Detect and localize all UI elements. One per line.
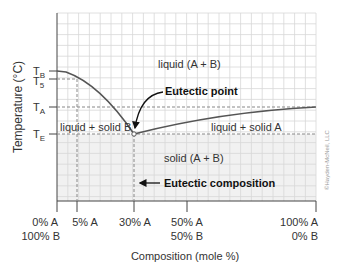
svg-text:0% B: 0% B xyxy=(292,230,318,242)
eutectic-point-label: Eutectic point xyxy=(165,85,238,97)
svg-text:0% A: 0% A xyxy=(32,216,58,228)
region-label-liquid-solid-b: liquid + solid B xyxy=(60,121,131,133)
copyright-notice: ©Hayden-McNeil, LLC xyxy=(324,129,330,189)
y-tick-marks xyxy=(49,71,57,134)
phase-diagram: TB T5 TA TE Temperature (°C) liquid (A +… xyxy=(0,0,341,274)
svg-text:50% B: 50% B xyxy=(171,230,203,242)
y-tick-labels: TB T5 TA TE xyxy=(33,65,46,143)
svg-text:TA: TA xyxy=(33,101,46,116)
y-axis-label: Temperature (°C) xyxy=(11,61,25,153)
eutectic-composition-label: Eutectic composition xyxy=(164,177,276,189)
x-axis-label: Composition (mole %) xyxy=(131,250,239,262)
svg-text:30% A: 30% A xyxy=(119,216,151,228)
region-label-liquid: liquid (A + B) xyxy=(158,58,221,70)
x-tick-labels: 0% A 100% B 5% A 30% A 50% A 50% B 100% … xyxy=(21,216,318,242)
svg-text:50% A: 50% A xyxy=(171,216,203,228)
svg-text:100% B: 100% B xyxy=(21,230,60,242)
region-label-solid: solid (A + B) xyxy=(164,152,224,164)
svg-text:5% A: 5% A xyxy=(72,216,98,228)
region-label-liquid-solid-a: liquid + solid A xyxy=(211,121,282,133)
x-tick-marks xyxy=(57,201,316,212)
eutectic-point-marker xyxy=(132,132,136,136)
svg-text:TE: TE xyxy=(33,128,45,143)
svg-text:100% A: 100% A xyxy=(280,216,319,228)
